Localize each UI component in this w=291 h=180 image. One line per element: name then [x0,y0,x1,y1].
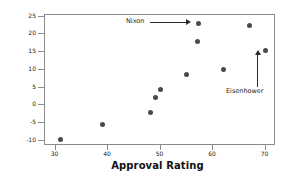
data-point [184,72,189,77]
y-axis-tick-label: -5 [8,118,36,125]
scatter-chart-figure: Margin of Victory -10-50510152025 304050… [0,0,291,180]
annotation-label-eisenhower: Eisenhower [226,87,264,95]
y-axis-tick-label: 5 [8,83,36,90]
y-axis-tick-label: 25 [8,12,36,19]
y-axis-tick-label: 20 [8,29,36,36]
data-point [100,122,105,127]
x-axis-tick-label: 70 [253,150,277,157]
plot-area [44,14,275,145]
data-point [148,110,153,115]
data-point [263,48,268,53]
data-point [58,137,63,142]
annotation-label-nixon: Nixon [126,17,144,25]
y-axis-tick-label: 10 [8,65,36,72]
x-axis-title: Approval Rating [40,160,275,171]
annotation-arrowhead-nixon [186,19,191,25]
annotation-arrowhead-eisenhower [255,50,261,55]
data-point [196,21,201,26]
y-axis-tick-label: 0 [8,100,36,107]
data-point [195,39,200,44]
y-axis-tick-label: 15 [8,47,36,54]
data-point [153,95,158,100]
data-point [247,23,252,28]
x-axis-tick-label: 60 [200,150,224,157]
y-axis-tick-label: -10 [8,136,36,143]
annotation-leader-line-eisenhower [257,55,258,87]
annotation-leader-line-nixon [150,22,187,23]
x-axis-tick-label: 30 [43,150,67,157]
data-point [221,67,226,72]
data-point [158,87,163,92]
x-axis-tick-label: 40 [95,150,119,157]
x-axis-tick-label: 50 [148,150,172,157]
